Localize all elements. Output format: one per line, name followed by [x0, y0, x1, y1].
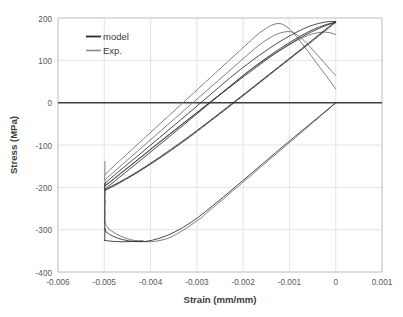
y-tick-label: -200: [36, 184, 53, 193]
x-tick-label: -0.006: [46, 278, 70, 287]
chart-svg: 200 100 0 -100 -200 -300 -400 -0.006 -0.…: [0, 0, 403, 317]
x-axis-title: Strain (mm/mm): [183, 294, 256, 305]
chart-background: [0, 0, 403, 317]
y-axis-title: Stress (MPa): [8, 116, 19, 174]
y-tick-label: 200: [38, 15, 52, 24]
legend-label-model: model: [103, 31, 129, 42]
x-tick-label: 0: [333, 278, 338, 287]
y-tick-label: 0: [47, 99, 52, 108]
x-tick-label: -0.004: [139, 278, 163, 287]
x-tick-label: -0.002: [231, 278, 255, 287]
y-tick-label: -300: [36, 226, 53, 235]
y-tick-label: -400: [36, 269, 53, 278]
stress-strain-chart: 200 100 0 -100 -200 -300 -400 -0.006 -0.…: [0, 0, 403, 317]
x-tick-label: -0.003: [185, 278, 209, 287]
x-tick-label: -0.001: [278, 278, 302, 287]
y-tick-label: -100: [36, 142, 53, 151]
x-tick-label: -0.005: [93, 278, 117, 287]
legend-label-exp: Exp.: [103, 45, 122, 56]
x-tick-label: 0.001: [372, 278, 393, 287]
y-tick-label: 100: [38, 57, 52, 66]
